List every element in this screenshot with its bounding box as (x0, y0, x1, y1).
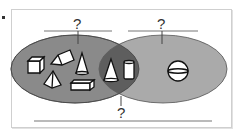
rectangular-prism-icon (71, 80, 94, 90)
cylinder-icon (124, 61, 134, 80)
sphere-icon (168, 61, 188, 81)
right-set-label: ? (157, 16, 165, 31)
intersection-label: ? (117, 105, 125, 120)
cube-icon (28, 57, 44, 73)
left-set-label: ? (73, 16, 81, 31)
